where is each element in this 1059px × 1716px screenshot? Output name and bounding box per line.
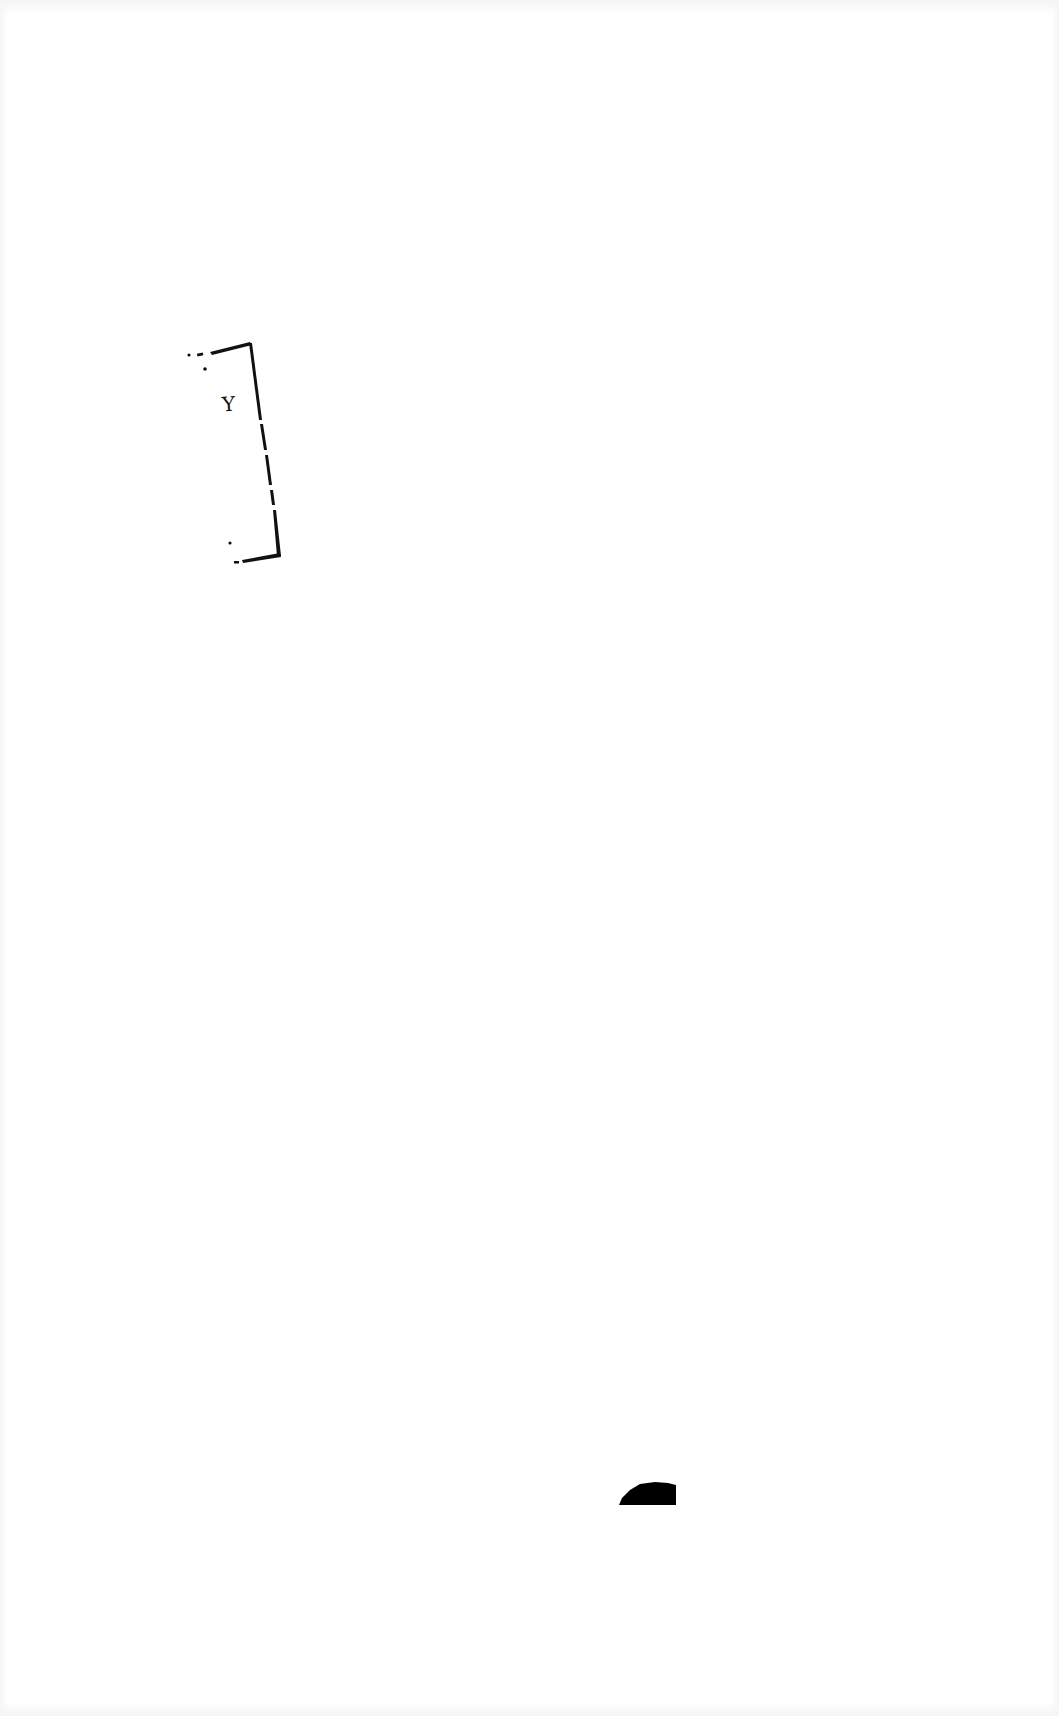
ink-marks (0, 0, 1059, 1716)
bracket-label: Y (221, 394, 236, 415)
scanned-page: Y (0, 0, 1059, 1716)
ink-blob (619, 1482, 676, 1505)
bracket-mark (187, 342, 281, 564)
